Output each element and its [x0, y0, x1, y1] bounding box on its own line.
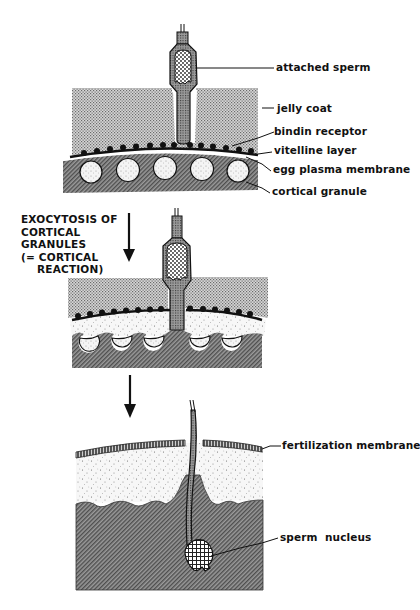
label-bindin-receptor: bindin receptor — [274, 126, 367, 137]
caption-line-3: GRANULES — [21, 238, 118, 251]
caption-line-5: REACTION) — [21, 263, 118, 276]
panel-3 — [76, 400, 281, 590]
label-attached-sperm: attached sperm — [276, 62, 371, 73]
label-cortical-granule: cortical granule — [272, 186, 367, 197]
caption-cortical-reaction: EXOCYTOSIS OF CORTICAL GRANULES (= CORTI… — [21, 213, 118, 276]
label-sperm-nucleus: sperm nucleus — [280, 532, 371, 543]
label-jelly-coat: jelly coat — [277, 103, 332, 114]
caption-line-1: EXOCYTOSIS OF — [21, 213, 118, 226]
label-fertilization-membrane: fertilization membrane — [282, 440, 420, 451]
arrow-down-2 — [124, 375, 136, 418]
arrow-down-1 — [123, 213, 135, 262]
label-vitelline-layer: vitelline layer — [274, 145, 357, 156]
label-egg-plasma-membrane: egg plasma membrane — [273, 164, 410, 175]
panel-1 — [63, 24, 274, 193]
caption-line-4: (= CORTICAL — [21, 251, 118, 264]
caption-line-2: CORTICAL — [21, 226, 118, 239]
